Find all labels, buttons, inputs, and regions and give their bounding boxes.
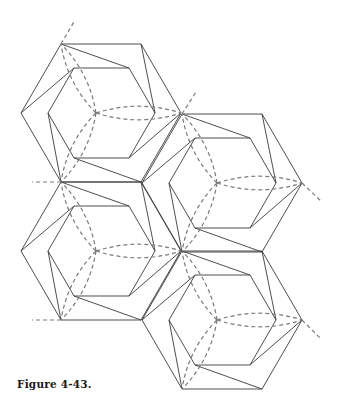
fold-line (262, 114, 276, 183)
fold-line (262, 251, 276, 320)
fold-line (141, 44, 155, 113)
hexagon-tiles (21, 44, 302, 389)
hex-bottom-right (142, 251, 302, 389)
dashed-lens-arc (96, 106, 181, 113)
fold-line (182, 251, 250, 275)
dashed-lens-arc (61, 251, 96, 320)
dashed-extension-line (61, 20, 75, 44)
dashed-lens-arc (61, 251, 96, 320)
dashed-lens-arc (61, 113, 96, 182)
dashed-lens-arc (96, 113, 181, 120)
fold-line (21, 68, 74, 113)
fold-line (21, 206, 74, 251)
figure-caption: Figure 4-43. (17, 378, 92, 390)
fold-line (250, 320, 302, 365)
dashed-lens-arc (182, 183, 217, 252)
outer-hexagon (142, 251, 302, 389)
outer-hexagon (142, 114, 302, 252)
fold-line (142, 275, 195, 320)
fold-line (61, 44, 129, 68)
inner-hexagon (169, 275, 276, 365)
dashed-lens-arc (96, 244, 181, 251)
fold-line (74, 296, 141, 320)
outer-hexagon (21, 44, 181, 182)
fold-line (129, 113, 181, 158)
inner-hexagon (48, 206, 155, 296)
hex-top-left (21, 44, 181, 182)
fold-line (74, 158, 141, 182)
fold-line (195, 365, 262, 389)
fold-line (182, 114, 250, 138)
fold-line (195, 228, 262, 252)
dashed-lens-arc (182, 183, 217, 252)
fold-line (142, 138, 195, 183)
tessellation-diagram (0, 0, 339, 408)
fold-line (61, 182, 129, 206)
fold-line (250, 183, 302, 228)
dashed-lens-arc (182, 320, 217, 389)
outer-hexagon (21, 182, 181, 320)
dashed-extension-line (182, 92, 196, 114)
hex-bottom-left (21, 182, 181, 320)
dashed-lens-arc (217, 176, 302, 183)
dashed-extension-line (302, 183, 322, 202)
inner-hexagon (48, 68, 155, 158)
dashed-lens-arc (61, 113, 96, 182)
dashed-lens-arc (217, 183, 302, 190)
inner-hexagon (169, 138, 276, 228)
dashed-lens-arc (217, 313, 302, 320)
dashed-lens-arc (217, 320, 302, 327)
hex-mid-right (142, 114, 302, 252)
fold-line (141, 182, 155, 251)
dashed-lens-arc (182, 320, 217, 389)
dashed-lens-arc (96, 251, 181, 258)
fold-line (129, 251, 181, 296)
dashed-extension-line (302, 320, 321, 339)
